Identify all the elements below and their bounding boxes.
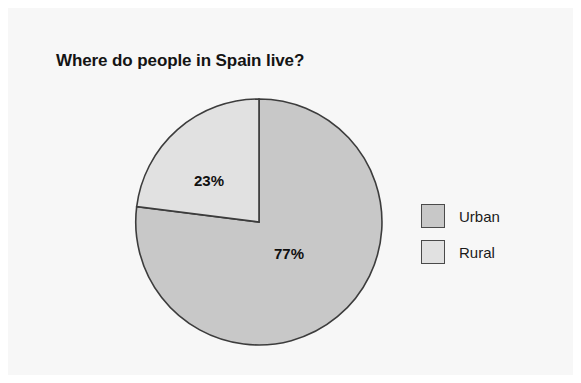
legend-swatch-rural [421,240,445,264]
legend-item-rural[interactable]: Rural [421,237,541,267]
pie-chart-screenshot: Where do people in Spain live? 23% 77% U… [0,0,581,383]
legend-label-rural: Rural [459,244,495,261]
pie-svg [134,97,384,347]
legend-swatch-urban [421,204,445,228]
pie-chart-graphic: 23% 77% [134,97,384,347]
legend-label-urban: Urban [459,208,500,225]
pie-label-rural: 23% [194,172,224,189]
pie-label-urban: 77% [274,245,304,262]
chart-canvas: Where do people in Spain live? 23% 77% U… [8,8,573,375]
pie-slice-rural[interactable] [137,99,259,222]
chart-legend: Urban Rural [421,201,541,273]
legend-item-urban[interactable]: Urban [421,201,541,231]
page-title: Where do people in Spain live? [56,51,304,71]
